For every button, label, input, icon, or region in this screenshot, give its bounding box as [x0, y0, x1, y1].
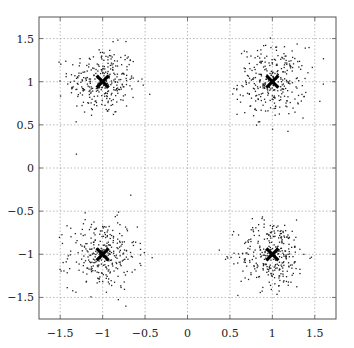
- data-point: [83, 255, 84, 256]
- data-point: [58, 62, 59, 63]
- data-point: [109, 55, 110, 56]
- data-point: [265, 255, 266, 256]
- data-point: [115, 257, 116, 258]
- data-point: [250, 274, 251, 275]
- data-point: [284, 96, 285, 97]
- data-point: [97, 63, 98, 64]
- data-point: [101, 57, 102, 58]
- data-point: [266, 56, 267, 57]
- data-point: [289, 80, 290, 81]
- y-tick-label: −0.5: [7, 205, 34, 218]
- data-point: [267, 269, 268, 270]
- data-point: [88, 86, 89, 87]
- y-tick-label: 0.5: [17, 119, 35, 132]
- data-point: [260, 249, 261, 250]
- data-point: [108, 101, 109, 102]
- data-point: [93, 221, 94, 222]
- data-point: [281, 257, 282, 258]
- data-point: [275, 106, 276, 107]
- data-point: [272, 248, 273, 249]
- data-point: [91, 242, 92, 243]
- data-point: [67, 258, 68, 259]
- data-point: [107, 66, 108, 67]
- data-point: [237, 85, 238, 86]
- data-point: [269, 268, 270, 269]
- data-point: [78, 73, 79, 74]
- data-point: [282, 239, 283, 240]
- data-point: [255, 270, 256, 271]
- data-point: [111, 100, 112, 101]
- data-point: [290, 67, 291, 68]
- data-point: [102, 66, 103, 67]
- data-point: [112, 41, 113, 42]
- data-point: [274, 230, 275, 231]
- data-point: [91, 102, 92, 103]
- data-point: [258, 276, 259, 277]
- data-point: [79, 58, 80, 59]
- data-point: [283, 58, 284, 59]
- data-point: [274, 277, 275, 278]
- data-point: [233, 88, 234, 89]
- data-point: [305, 48, 306, 49]
- data-point: [123, 74, 124, 75]
- data-point: [102, 68, 103, 69]
- data-point: [263, 84, 264, 85]
- data-point: [143, 85, 144, 86]
- data-point: [283, 254, 284, 255]
- data-point: [59, 269, 60, 270]
- data-point: [98, 278, 99, 279]
- data-point: [109, 272, 110, 273]
- data-point: [130, 252, 131, 253]
- data-point: [116, 255, 117, 256]
- data-point: [277, 90, 278, 91]
- data-point: [261, 75, 262, 76]
- data-point: [109, 251, 110, 252]
- data-point: [103, 274, 104, 275]
- data-point: [83, 72, 84, 73]
- data-point: [275, 268, 276, 269]
- y-tick-label: −1: [18, 248, 34, 261]
- data-point: [78, 75, 79, 76]
- data-point: [79, 65, 80, 66]
- data-point: [119, 241, 120, 242]
- data-point: [254, 57, 255, 58]
- data-point: [259, 246, 260, 247]
- data-point: [103, 249, 104, 250]
- data-point: [131, 78, 132, 79]
- data-point: [96, 261, 97, 262]
- data-point: [258, 224, 259, 225]
- data-point: [129, 85, 130, 86]
- data-point: [103, 75, 104, 76]
- data-point: [275, 264, 276, 265]
- data-point: [267, 92, 268, 93]
- data-point: [292, 57, 293, 58]
- data-point: [289, 237, 290, 238]
- data-point: [96, 105, 97, 106]
- data-point: [93, 242, 94, 243]
- data-point: [122, 260, 123, 261]
- data-point: [97, 95, 98, 96]
- data-point: [283, 280, 284, 281]
- data-point: [264, 66, 265, 67]
- data-point: [245, 68, 246, 69]
- data-point: [305, 92, 306, 93]
- data-point: [109, 253, 110, 254]
- data-point: [91, 99, 92, 100]
- data-point: [101, 95, 102, 96]
- data-point: [139, 263, 140, 264]
- data-point: [301, 94, 302, 95]
- data-point: [274, 244, 275, 245]
- data-point: [107, 276, 108, 277]
- data-point: [261, 100, 262, 101]
- data-point: [263, 249, 264, 250]
- data-point: [121, 64, 122, 65]
- data-point: [105, 234, 106, 235]
- data-point: [287, 254, 288, 255]
- data-point: [272, 72, 273, 73]
- data-point: [106, 292, 107, 293]
- data-point: [264, 86, 265, 87]
- data-point: [105, 246, 106, 247]
- data-point: [124, 249, 125, 250]
- data-point: [107, 93, 108, 94]
- data-point: [112, 230, 113, 231]
